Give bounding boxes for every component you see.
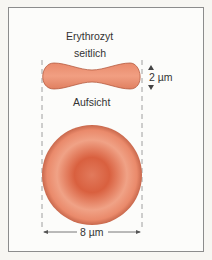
arrow-right-icon [136,230,141,234]
top-view-cell [42,125,142,225]
side-view-cell [43,63,140,89]
arrow-up-icon [148,65,154,70]
figure-title: Erythrozyt [66,30,113,42]
diameter-label: 8 µm [80,226,104,238]
top-view-label: Aufsicht [73,96,110,108]
arrow-down-icon [148,85,154,90]
thickness-label: 2 µm [149,71,173,83]
arrow-left-icon [43,230,48,234]
side-view-label: seitlich [74,47,106,59]
